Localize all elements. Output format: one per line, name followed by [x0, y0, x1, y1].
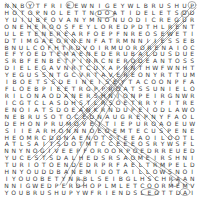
grid-row: YOUBRUSHUPYWFRIENDSLEGTTDAI [3, 190, 196, 197]
grid-row: ICGTCLASDHSTLRSOETRRYFITRE [3, 100, 196, 107]
letter-cell[interactable]: I [189, 190, 196, 197]
letter-grid: NNBYTFRIEEWNIGEYWLBRUSHUPHOTOPNOLETTNDOA… [3, 3, 196, 197]
letter-cell[interactable]: H [53, 190, 60, 197]
letter-cell[interactable]: T [167, 190, 174, 197]
grid-row: TURIOTOENDEDRPRFAELTRMPELD [3, 162, 196, 169]
grid-row: YUCESTSDALHEDSRSAOMEIRSHNI [3, 155, 196, 162]
letter-cell[interactable]: G [153, 190, 160, 197]
letter-cell[interactable]: W [82, 190, 89, 197]
grid-row: RILONAODANERSHNIONPEIRGNWR [3, 93, 196, 100]
letter-cell[interactable]: U [17, 190, 24, 197]
letter-cell[interactable]: B [24, 190, 31, 197]
letter-cell[interactable]: R [96, 190, 103, 197]
grid-row: ULETENEREARFOEPFNREOSEWETI [3, 31, 196, 38]
letter-cell[interactable]: E [110, 190, 117, 197]
letter-cell[interactable]: D [174, 190, 181, 197]
letter-cell[interactable]: I [103, 190, 110, 197]
letter-cell[interactable]: U [39, 190, 46, 197]
word-search-puzzle: NNBYTFRIEEWNIGEYWLBRUSHUPHOTOPNOLETTNDOA… [0, 0, 199, 200]
grid-row: NNYNOGIVEEPFOROORPOEDRREUED [3, 148, 196, 155]
letter-cell[interactable]: E [146, 190, 153, 197]
letter-cell[interactable]: T [160, 190, 167, 197]
letter-cell[interactable]: Y [74, 190, 81, 197]
grid-row: BNULCOFHTRDVOIRMUORORENAIOC [3, 45, 196, 52]
letter-cell[interactable]: A [182, 190, 189, 197]
letter-cell[interactable]: Y [3, 190, 10, 197]
letter-cell[interactable]: N [117, 190, 124, 197]
letter-cell[interactable]: S [132, 190, 139, 197]
letter-cell[interactable]: S [46, 190, 53, 197]
letter-cell[interactable]: P [67, 190, 74, 197]
letter-cell[interactable]: U [60, 190, 67, 197]
letter-cell[interactable]: O [10, 190, 17, 197]
letter-cell[interactable]: F [89, 190, 96, 197]
grid-row: IBOETSSDEINEISEYTACOONPFA [3, 79, 196, 86]
letter-cell[interactable]: R [32, 190, 39, 197]
letter-cell[interactable]: D [124, 190, 131, 197]
letter-cell[interactable]: L [139, 190, 146, 197]
